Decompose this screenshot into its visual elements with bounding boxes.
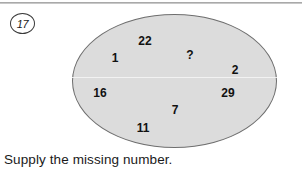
instruction-caption: Supply the missing number. [4, 152, 172, 167]
page-top-rule-shadow [0, 3, 302, 4]
scan-artifact-line [72, 77, 277, 78]
puzzle-page: 17 221?21629711 Supply the missing numbe… [0, 0, 302, 171]
ellipse-figure [72, 14, 277, 148]
ellipse-value: 11 [137, 121, 150, 135]
ellipse-value: 7 [172, 103, 179, 117]
ellipse-value: 16 [93, 86, 106, 100]
ellipse-value: 2 [232, 63, 239, 77]
ellipse-value: 22 [138, 34, 151, 48]
item-number-marker: 17 [10, 13, 35, 34]
ellipse-value: 29 [221, 86, 234, 100]
ellipse-value: 1 [112, 51, 119, 65]
missing-value-placeholder: ? [186, 48, 193, 62]
